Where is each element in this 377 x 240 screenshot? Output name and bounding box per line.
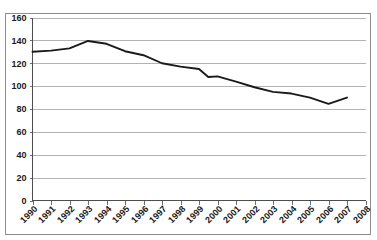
x-tick-label-1994: 1994 xyxy=(92,204,113,225)
x-tick-label-2005: 2005 xyxy=(295,204,316,225)
x-tick-label-1995: 1995 xyxy=(110,204,131,225)
x-tick-label-2006: 2006 xyxy=(314,204,335,225)
x-axis-tick-marks xyxy=(34,201,367,205)
chart-figure: 020406080100120140160 199019911992199319… xyxy=(0,0,377,240)
x-tick-label-1997: 1997 xyxy=(147,204,168,225)
x-tick-label-2000: 2000 xyxy=(203,204,224,225)
y-tick-label-140: 140 xyxy=(11,36,26,46)
gridlines-group xyxy=(30,19,366,202)
x-tick-label-1990: 1990 xyxy=(18,204,39,225)
x-tick-label-1999: 1999 xyxy=(184,204,205,225)
x-tick-label-1993: 1993 xyxy=(73,204,94,225)
x-tick-label-2003: 2003 xyxy=(258,204,279,225)
line-chart-plot: 020406080100120140160 199019911992199319… xyxy=(0,0,377,240)
y-tick-label-0: 0 xyxy=(21,196,26,206)
x-axis-tick-labels: 1990199119921993199419951996199719981999… xyxy=(18,204,372,225)
x-tick-label-1996: 1996 xyxy=(129,204,150,225)
x-tick-label-1991: 1991 xyxy=(36,204,57,225)
x-tick-label-2002: 2002 xyxy=(240,204,261,225)
y-tick-label-60: 60 xyxy=(16,127,26,137)
x-tick-label-2008: 2008 xyxy=(351,204,372,225)
data-series-line xyxy=(33,41,348,104)
x-tick-label-2001: 2001 xyxy=(221,204,242,225)
x-tick-label-2007: 2007 xyxy=(332,204,353,225)
y-tick-label-40: 40 xyxy=(16,150,26,160)
y-tick-label-160: 160 xyxy=(11,13,26,23)
x-tick-label-1998: 1998 xyxy=(166,204,187,225)
y-tick-label-100: 100 xyxy=(11,81,26,91)
y-tick-label-80: 80 xyxy=(16,104,26,114)
x-tick-label-2004: 2004 xyxy=(277,204,298,225)
y-tick-label-20: 20 xyxy=(16,173,26,183)
y-axis-tick-labels: 020406080100120140160 xyxy=(11,13,26,206)
y-tick-label-120: 120 xyxy=(11,59,26,69)
x-tick-label-1992: 1992 xyxy=(55,204,76,225)
